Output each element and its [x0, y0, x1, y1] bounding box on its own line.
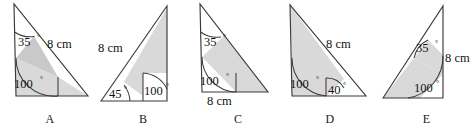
figure-c-label: C: [190, 112, 286, 126]
figure-e-angle-label-35: 35: [416, 41, 429, 55]
figure-a-length-label: 8 cm: [47, 37, 72, 51]
figure-c-length-label: 8 cm: [207, 94, 232, 108]
figure-d-degree-symbol-40: °: [343, 81, 346, 90]
figure-e-angle-label-100: 100: [414, 81, 433, 95]
figure-c-degree-symbol-35: °: [223, 33, 226, 42]
figure-a-angle-label-35: 35: [18, 35, 31, 49]
figure-a-label: A: [0, 112, 100, 126]
figure-b-degree-symbol-100: °: [166, 82, 169, 91]
figure-d-angle-label-40: 40: [328, 83, 341, 97]
figure-e-length-label: 8 cm: [445, 51, 470, 65]
figure-e-degree-symbol-35: °: [435, 39, 438, 48]
triangle-figure-board: 35 ° 100 ° 8 cm A 45 ° 100 °: [0, 0, 475, 128]
figure-b-drawing: 45 ° 100 ° 8 cm: [96, 0, 190, 110]
figure-d-drawing: 100 ° 40 ° 8 cm: [282, 0, 378, 110]
figure-b-degree-symbol-45: °: [124, 85, 127, 94]
figure-b-shaded-region: [124, 8, 167, 96]
figure-e-drawing: 35 ° 100 ° 8 cm: [378, 0, 475, 110]
figure-c-degree-symbol-100: °: [226, 72, 229, 81]
figure-e: 35 ° 100 ° 8 cm E: [378, 0, 475, 128]
figure-b-length-label: 8 cm: [98, 41, 123, 55]
figure-b-angle-label-100: 100: [144, 84, 163, 98]
figure-a-degree-symbol-100: °: [40, 75, 43, 84]
figure-a-drawing: 35 ° 100 ° 8 cm: [0, 0, 100, 110]
figure-d-label: D: [282, 112, 378, 126]
figure-a-degree-symbol-35: °: [37, 33, 40, 42]
figure-b-label: B: [96, 112, 190, 126]
figure-e-label: E: [378, 112, 475, 126]
figure-a: 35 ° 100 ° 8 cm A: [0, 0, 100, 128]
figure-d-degree-symbol-100: °: [316, 75, 319, 84]
figure-c-angle-label-35: 35: [204, 35, 217, 49]
figure-a-angle-label-100: 100: [14, 77, 33, 91]
figure-c-angle-label-100: 100: [200, 74, 219, 88]
figure-c-drawing: 35 ° 100 ° 8 cm: [190, 0, 286, 110]
figure-c: 35 ° 100 ° 8 cm C: [190, 0, 286, 128]
figure-d-angle-label-100: 100: [290, 77, 309, 91]
figure-d-length-label: 8 cm: [326, 37, 351, 51]
figure-d: 100 ° 40 ° 8 cm D: [282, 0, 378, 128]
figure-e-degree-symbol-100: °: [436, 79, 439, 88]
figure-b-angle-label-45: 45: [109, 87, 122, 101]
figure-b: 45 ° 100 ° 8 cm B: [96, 0, 190, 128]
